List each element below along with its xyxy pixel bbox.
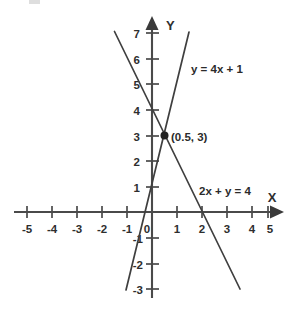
x-tick-label: -4 (47, 223, 58, 235)
x-tick-label-origin: 0 (144, 223, 150, 235)
x-tick-label: 4 (249, 223, 256, 235)
y-tick-label: 7 (134, 28, 140, 40)
x-tick-label: 3 (224, 223, 230, 235)
y-tick-label: -2 (133, 259, 143, 271)
graph-canvas: -5 -4 -3 -2 -1 0 1 2 3 4 5 7 6 5 4 3 2 1… (0, 0, 300, 315)
x-tick-label: -3 (72, 223, 82, 235)
y-tick-label: 2 (134, 156, 140, 168)
equation-label-line2: 2x + y = 4 (199, 185, 251, 197)
y-tick-label: 6 (134, 54, 140, 66)
y-axis-arrowhead (146, 16, 159, 30)
x-tick-label: 2 (199, 223, 205, 235)
x-axis-label: X (268, 190, 277, 205)
x-tick-label: 5 (267, 223, 274, 235)
x-tick-label: 1 (174, 223, 181, 235)
y-tick-label: 5 (134, 79, 141, 91)
y-tick-label: -3 (133, 284, 143, 296)
y-tick-label: 1 (134, 182, 141, 194)
x-tick-label: -1 (122, 223, 133, 235)
x-tick-label: -2 (97, 223, 107, 235)
x-axis-arrowhead (270, 206, 284, 219)
y-tick-label: 4 (134, 105, 141, 117)
coordinate-plane-svg: -5 -4 -3 -2 -1 0 1 2 3 4 5 7 6 5 4 3 2 1… (0, 0, 300, 315)
y-tick-label: 3 (134, 131, 140, 143)
intersection-point-dot (161, 132, 169, 140)
equation-label-line1: y = 4x + 1 (191, 63, 243, 75)
y-axis-label: Y (166, 18, 175, 33)
scan-artifact (29, 0, 40, 4)
intersection-point-label: (0.5, 3) (171, 131, 208, 143)
x-tick-label: -5 (22, 223, 33, 235)
